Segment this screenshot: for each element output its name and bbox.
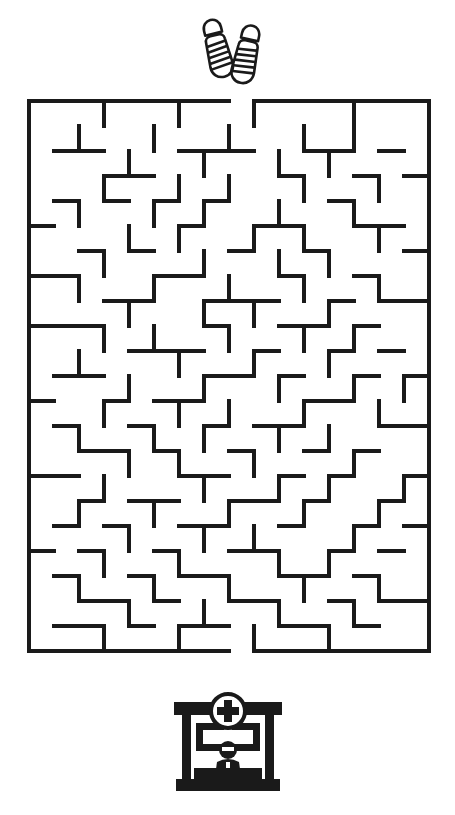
maze-walls [20,92,438,662]
sandals-footwear-icon [190,16,270,91]
start-marker [190,16,270,91]
maze-grid [20,92,438,662]
goal-marker [172,692,284,796]
maze-puzzle-page [0,0,455,815]
hospital-reception-desk-icon [172,692,284,796]
